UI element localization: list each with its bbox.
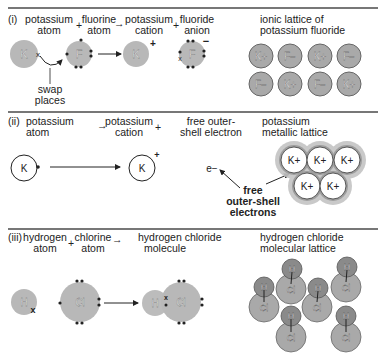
svg-text:H: H bbox=[20, 297, 27, 308]
svg-text:K+: K+ bbox=[327, 181, 340, 192]
electron-pointer-arrow bbox=[220, 170, 240, 188]
svg-text:K+: K+ bbox=[288, 155, 301, 166]
hcl-unit: H Cl bbox=[302, 278, 332, 322]
svg-text:−: − bbox=[203, 35, 209, 47]
hcl-unit: H Cl bbox=[276, 259, 306, 304]
svg-text:H: H bbox=[288, 311, 295, 321]
metallic-lattice: K+ K+ K+ K+ K+ bbox=[275, 141, 366, 205]
free-electron-symbol: e− bbox=[206, 163, 218, 174]
svg-text:H: H bbox=[151, 298, 158, 309]
ionic-lattice: K+ F− K+ F− F− K+ F− K+ bbox=[249, 44, 361, 96]
svg-text:x: x bbox=[164, 294, 168, 301]
svg-text:x: x bbox=[30, 305, 35, 315]
svg-text:H: H bbox=[344, 262, 351, 272]
hcl-unit: H Cl bbox=[331, 306, 361, 352]
svg-text:F−: F− bbox=[255, 79, 267, 90]
svg-text:K+: K+ bbox=[343, 79, 356, 90]
svg-text:H: H bbox=[261, 282, 268, 292]
lattice-row-1: K+ F− K+ F− bbox=[249, 44, 361, 68]
fluorine-atom: F bbox=[65, 38, 92, 68]
svg-text:K: K bbox=[21, 163, 28, 174]
svg-text:K+: K+ bbox=[284, 79, 297, 90]
hydrogen-atom: H x bbox=[11, 289, 37, 315]
svg-text:Cl: Cl bbox=[287, 333, 296, 343]
svg-text:Cl: Cl bbox=[313, 303, 322, 313]
svg-text:+: + bbox=[154, 150, 159, 160]
svg-text:K: K bbox=[20, 48, 28, 60]
hcl-unit: H Cl bbox=[331, 257, 361, 302]
svg-text:H: H bbox=[289, 264, 296, 274]
lattice-row-2: F− K+ F− K+ bbox=[249, 72, 361, 96]
svg-text:Cl: Cl bbox=[287, 285, 296, 295]
potassium-atom-outline: K bbox=[11, 155, 40, 181]
svg-text:F−: F− bbox=[314, 79, 326, 90]
svg-text:F: F bbox=[76, 48, 83, 60]
hcl-molecule: H Cl x bbox=[142, 279, 204, 324]
svg-text:Cl: Cl bbox=[342, 283, 351, 293]
svg-text:Cl: Cl bbox=[176, 297, 185, 308]
svg-text:K+: K+ bbox=[314, 155, 327, 166]
diagram-graphics: K x F K + F x − K+ F− K+ bbox=[0, 0, 383, 359]
potassium-atom: K x bbox=[10, 40, 40, 68]
svg-text:K: K bbox=[132, 48, 140, 60]
svg-text:K+: K+ bbox=[255, 51, 268, 62]
svg-text:Cl: Cl bbox=[260, 303, 269, 313]
svg-text:Cl: Cl bbox=[75, 297, 84, 308]
svg-text:F−: F− bbox=[343, 51, 355, 62]
svg-text:F: F bbox=[189, 48, 196, 60]
svg-text:K: K bbox=[139, 163, 146, 174]
potassium-cation-outline: K + bbox=[129, 150, 160, 181]
svg-text:Cl: Cl bbox=[342, 333, 351, 343]
chlorine-atom: Cl bbox=[58, 279, 100, 324]
hcl-unit: H Cl bbox=[249, 277, 279, 322]
hcl-unit: H Cl bbox=[276, 306, 306, 352]
svg-text:H: H bbox=[343, 311, 350, 321]
potassium-cation: K + bbox=[123, 38, 156, 67]
svg-text:K+: K+ bbox=[314, 51, 327, 62]
svg-text:F−: F− bbox=[284, 51, 296, 62]
hcl-molecular-lattice: H Cl H Cl H Cl H Cl bbox=[249, 257, 361, 352]
svg-text:K+: K+ bbox=[341, 155, 354, 166]
svg-text:x: x bbox=[36, 50, 40, 59]
svg-text:x: x bbox=[178, 55, 182, 62]
svg-text:H: H bbox=[315, 283, 322, 293]
svg-text:K+: K+ bbox=[301, 181, 314, 192]
fluoride-anion: F x − bbox=[178, 35, 209, 69]
swap-arrow bbox=[40, 56, 62, 65]
svg-text:+: + bbox=[150, 38, 156, 49]
